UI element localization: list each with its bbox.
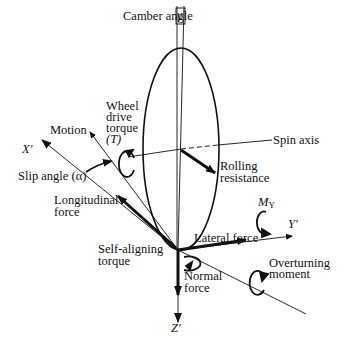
camber-symbol-label: γ: [177, 9, 182, 22]
normal-force-label-2: force: [184, 282, 210, 295]
spin-axis-line: [128, 140, 272, 157]
rolling-resistance-label-2: resistance: [220, 172, 269, 185]
lateral-force-label: Lateral force: [194, 232, 258, 245]
tire-force-diagram: Camber angle γ Wheel drive torque (T) Mo…: [0, 0, 345, 348]
z-axis-label: Z′: [171, 322, 181, 335]
camber-angle-label: Camber angle: [123, 10, 193, 23]
longitudinal-force-label-2: force: [54, 206, 80, 219]
spin-axis-label: Spin axis: [273, 134, 319, 147]
wheel-drive-torque-label-4: (T): [106, 133, 121, 146]
y-axis-label: Y′: [288, 218, 298, 231]
my-label-sub: Y: [268, 200, 275, 210]
slip-angle-arrow: [86, 161, 112, 172]
self-aligning-torque-label-2: torque: [98, 255, 130, 268]
x-axis-label: X′: [22, 143, 32, 156]
my-label-main: M: [258, 195, 268, 209]
motion-label: Motion: [50, 124, 87, 137]
camber-angle-lines: [176, 6, 185, 250]
my-moment-icon: [257, 211, 270, 237]
rolling-resistance-arrow: [181, 150, 215, 173]
overturning-moment-label-2: moment: [269, 268, 310, 281]
wheel-drive-torque-icon: [119, 150, 134, 177]
longitudinal-force-arrow: [118, 196, 176, 248]
slip-angle-label: Slip angle (α): [18, 170, 86, 183]
overturning-moment-icon: [250, 271, 268, 295]
my-label: MY: [258, 196, 275, 212]
